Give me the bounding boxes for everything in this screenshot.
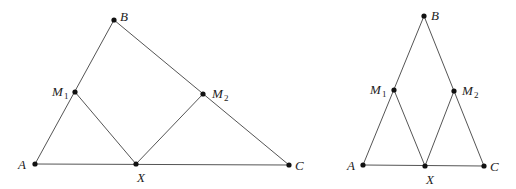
label-M1: M [51,84,64,99]
point-M1 [391,87,396,92]
label-X: X [136,170,146,185]
label-M1-subscript: 1 [382,89,387,99]
label-M1: M [369,82,382,97]
point-X [422,163,427,168]
label-C: C [295,158,304,173]
label-B: B [120,9,128,24]
diagram-canvas: A B C M 1 M 2 X A B C M 1 M 2 X [0,0,516,189]
point-M2 [451,88,456,93]
label-M1-subscript: 1 [64,91,69,101]
segment-M1X [394,90,425,166]
label-B: B [431,8,439,23]
point-A [32,161,37,166]
label-A: A [346,158,355,173]
point-C [481,163,486,168]
figure-right: A B C M 1 M 2 X [346,8,499,187]
label-A: A [17,157,26,172]
point-M1 [72,89,77,94]
label-M2: M [461,83,474,98]
label-M2-subscript: 2 [224,93,229,103]
figure-left: A B C M 1 M 2 X [17,9,304,185]
label-C: C [490,159,499,174]
point-B [111,17,116,22]
segment-XM2 [136,94,203,164]
point-M2 [200,91,205,96]
label-M2-subscript: 2 [474,90,479,100]
label-X: X [425,172,435,187]
segment-AC [35,164,289,165]
label-M2: M [211,86,224,101]
point-B [421,13,426,18]
segment-XM2 [425,91,454,166]
point-X [133,161,138,166]
point-C [286,162,291,167]
point-A [360,162,365,167]
segment-M1X [75,92,136,164]
